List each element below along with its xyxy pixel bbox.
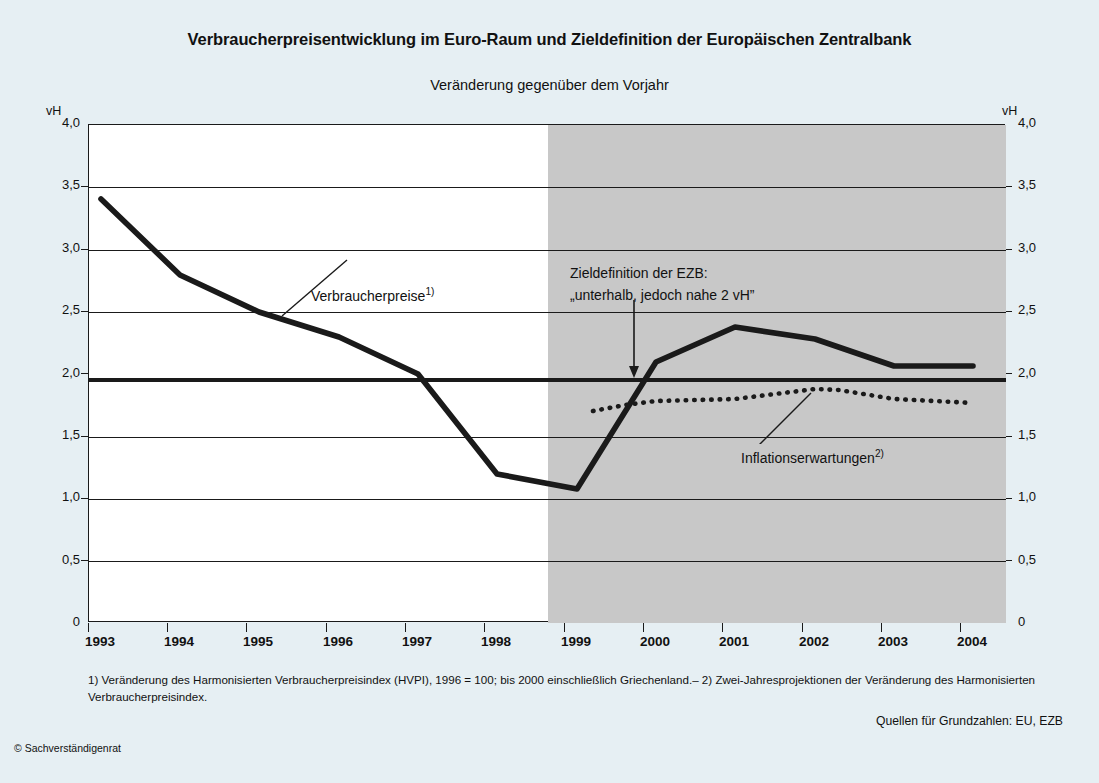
y-tick-label-left: 3,0 [40, 240, 80, 255]
y-tick-label-left: 2,0 [40, 365, 80, 380]
y-tick-mark-right [1005, 373, 1012, 374]
x-label-1996: 1996 [303, 634, 373, 649]
y-tick-label-right: 3,0 [1018, 240, 1036, 255]
sources-text: Quellen für Grundzahlen: EU, EZB [876, 714, 1063, 728]
y-tick-mark-left [81, 498, 88, 499]
y-tick-mark-right [1005, 436, 1012, 437]
page-subtitle: Veränderung gegenüber dem Vorjahr [0, 77, 1099, 93]
y-tick-label-right: 2,5 [1018, 302, 1036, 317]
footnote-marker-1: 1) [425, 286, 434, 297]
footnote-text: 1) Veränderung des Harmonisierten Verbra… [88, 672, 1063, 705]
y-tick-label-right: 0,5 [1018, 552, 1036, 567]
annotation-ecb-target-line1: Zieldefinition der EZB: [570, 265, 708, 281]
annotation-consumer-prices-text: Verbraucherpreise [311, 288, 425, 304]
annotation-consumer-prices: Verbraucherpreise1) [311, 282, 434, 306]
chart-svg [89, 125, 1006, 623]
chart-page: Verbraucherpreisentwicklung im Euro-Raum… [0, 0, 1099, 783]
y-tick-label-right: 2,0 [1018, 365, 1036, 380]
y-tick-mark-left [81, 436, 88, 437]
annotation-inflation-expectations-text: Inflationserwartungen [741, 450, 875, 466]
x-tick-2004 [960, 623, 961, 632]
y-tick-mark-left [81, 186, 88, 187]
x-tick-1993 [88, 623, 89, 632]
x-tick-1994 [167, 623, 168, 632]
x-tick-1997 [405, 623, 406, 632]
y-tick-label-left: 1,0 [40, 489, 80, 504]
x-label-1995: 1995 [223, 634, 293, 649]
x-tick-2000 [643, 623, 644, 632]
annotation-inflation-expectations: Inflationserwartungen2) [738, 444, 887, 468]
annotation-ecb-target-line2: „unterhalb, jedoch nahe 2 vH” [570, 287, 754, 303]
y-tick-mark-left [81, 249, 88, 250]
y-tick-label-right: 3,5 [1018, 177, 1036, 192]
x-label-1997: 1997 [382, 634, 452, 649]
x-label-2000: 2000 [620, 634, 690, 649]
x-label-2003: 2003 [858, 634, 928, 649]
x-label-2002: 2002 [779, 634, 849, 649]
y-tick-mark-right [1005, 560, 1012, 561]
y-tick-mark-left [81, 311, 88, 312]
y-tick-label-left: 3,5 [40, 177, 80, 192]
x-label-1994: 1994 [144, 634, 214, 649]
plot-area: Verbraucherpreise1) Zieldefinition der E… [88, 124, 1005, 622]
annotation-ecb-target-quote: „unterhalb, jedoch nahe 2 vH” [570, 286, 754, 305]
x-label-1993: 1993 [65, 634, 135, 649]
y-tick-label-right: 4,0 [1018, 115, 1036, 130]
page-title: Verbraucherpreisentwicklung im Euro-Raum… [0, 30, 1099, 49]
y-tick-label-left: 2,5 [40, 302, 80, 317]
target-arrow-head [629, 366, 639, 378]
x-label-1999: 1999 [541, 634, 611, 649]
x-tick-2003 [881, 623, 882, 632]
copyright-text: © Sachverständigenrat [14, 742, 121, 754]
x-tick-1998 [484, 623, 485, 632]
x-tick-2001 [722, 623, 723, 632]
x-label-2004: 2004 [937, 634, 1007, 649]
x-label-1998: 1998 [461, 634, 531, 649]
y-tick-label-left: 1,5 [40, 427, 80, 442]
y-axis-unit-right: vH [1002, 104, 1017, 118]
y-tick-label-left: 4,0 [40, 115, 80, 130]
y-tick-mark-right [1005, 249, 1012, 250]
x-tick-2002 [802, 623, 803, 632]
footnote-marker-2: 2) [875, 448, 884, 459]
x-tick-1996 [326, 623, 327, 632]
x-label-2001: 2001 [699, 634, 769, 649]
y-tick-label-left: 0,5 [40, 552, 80, 567]
y-tick-label-left: 0 [40, 614, 80, 629]
y-tick-mark-left [81, 560, 88, 561]
y-tick-label-right: 0 [1018, 614, 1025, 629]
series-inflationserwartungen [593, 389, 973, 411]
x-tick-1995 [246, 623, 247, 632]
y-tick-mark-left [81, 373, 88, 374]
y-tick-label-right: 1,0 [1018, 489, 1036, 504]
annotation-ecb-target: Zieldefinition der EZB: [570, 264, 708, 283]
y-tick-mark-right [1005, 186, 1012, 187]
y-tick-label-right: 1,5 [1018, 427, 1036, 442]
x-tick-1999 [564, 623, 565, 632]
y-tick-mark-right [1005, 498, 1012, 499]
y-tick-mark-right [1005, 311, 1012, 312]
